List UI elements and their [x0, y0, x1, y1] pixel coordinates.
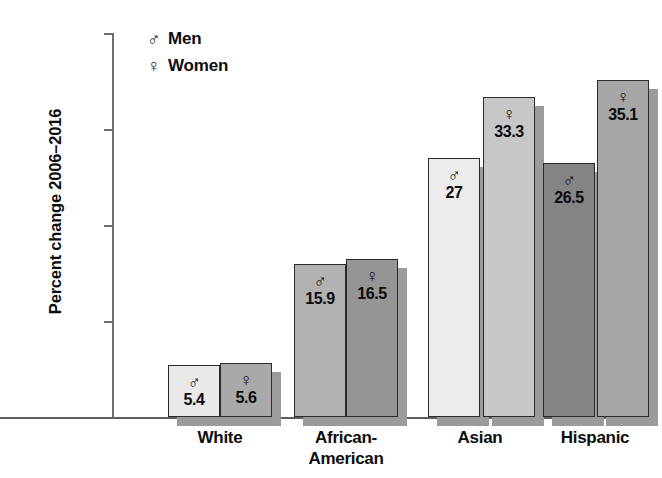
bar-value-label: ♀33.3: [483, 105, 535, 140]
bar-value-number: 33.3: [494, 123, 524, 140]
bar-value-number: 16.5: [357, 285, 387, 302]
category-label-line: American: [249, 449, 443, 470]
bar-value-label: ♀35.1: [597, 88, 649, 123]
bar-value-label: ♂26.5: [543, 171, 595, 206]
bar-hispanic-women[interactable]: [597, 80, 649, 417]
bar-value-number: 15.9: [305, 290, 335, 307]
male-symbol-icon: ♂: [294, 272, 346, 290]
bar-value-label: ♀16.5: [346, 267, 398, 302]
bar-value-label: ♂15.9: [294, 272, 346, 307]
bar-value-label: ♂27: [428, 166, 480, 201]
bar-value-number: 5.4: [183, 391, 204, 408]
female-symbol-icon: ♀: [220, 371, 272, 389]
category-label-line: Hispanic: [498, 428, 662, 449]
bar-value-number: 5.6: [235, 389, 256, 406]
male-symbol-icon: ♂: [168, 373, 220, 391]
male-symbol-icon: ♂: [543, 171, 595, 189]
bar-value-number: 27: [446, 184, 463, 201]
bar-value-number: 26.5: [554, 189, 584, 206]
female-symbol-icon: ♀: [346, 267, 398, 285]
bar-value-label: ♂5.4: [168, 373, 220, 408]
bar-value-label: ♀5.6: [220, 371, 272, 406]
bar-value-number: 35.1: [608, 106, 638, 123]
category-label-hispanic: Hispanic: [498, 428, 662, 449]
female-symbol-icon: ♀: [597, 88, 649, 106]
female-symbol-icon: ♀: [483, 105, 535, 123]
male-symbol-icon: ♂: [428, 166, 480, 184]
bar-asian-women[interactable]: [483, 97, 535, 417]
